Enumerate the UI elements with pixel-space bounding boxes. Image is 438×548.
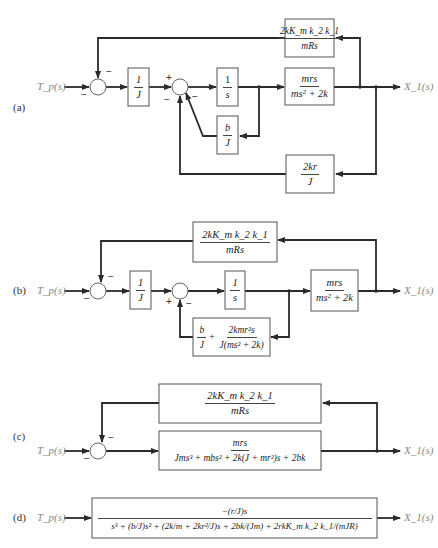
- sign-a-sum1-left: −: [81, 90, 87, 100]
- block-a-spring-feedback: 2kr J: [286, 155, 334, 193]
- sign-a-sum2-bottom-right: −: [192, 92, 198, 102]
- block-b-combined-feedback: b J + 2kmr²s J(ms² + 2k): [193, 318, 270, 356]
- sign-a-sum1-top: −: [106, 67, 112, 77]
- block-a-damping: b J: [217, 116, 238, 154]
- block-d-closed-loop: −(r/J)s s³ + (b/J)s² + (2k/m + 2kr²/J)s …: [92, 498, 377, 538]
- summing-junction-a1: [90, 79, 106, 95]
- block-a-integrator: 1 s: [217, 68, 238, 106]
- block-b-plant: mrs ms² + 2k: [311, 270, 358, 311]
- block-b-integrator: 1 s: [225, 271, 245, 309]
- block-a-plant: mrs ms² + 2k: [285, 68, 334, 105]
- input-signal-c: T_p(s): [37, 444, 66, 456]
- output-signal-b: X_1(s): [404, 284, 433, 296]
- sign-b-sum1-top: −: [108, 272, 114, 282]
- block-c-forward: mrs Jms³ + mbs² + 2k(J + mr²)s + 2bk: [159, 431, 321, 470]
- block-c-motor-feedback: 2kK_m k_2 k_1 mRs: [159, 384, 321, 423]
- output-signal-a: X_1(s): [404, 80, 433, 92]
- sign-a-sum2-bottom-left: −: [164, 95, 170, 105]
- block-a-motor-feedback: 2kK_m k_2 k_1 mRs: [285, 19, 334, 57]
- block-a-inv-j: 1 J: [128, 68, 149, 106]
- panel-label-a: (a): [13, 101, 25, 113]
- panel-label-c: (c): [13, 430, 25, 442]
- output-signal-d: X_1(s): [404, 511, 433, 523]
- summing-junction-a2: [172, 79, 188, 95]
- sign-b-sum2-left: +: [166, 297, 172, 307]
- sign-c-sum-left: −: [84, 454, 90, 464]
- sign-b-sum1-left: −: [84, 294, 90, 304]
- sign-b-sum2-bottom: −: [186, 299, 192, 309]
- output-signal-c: X_1(s): [404, 444, 433, 456]
- sign-a-sum2-left: +: [166, 73, 172, 83]
- input-signal-d: T_p(s): [37, 511, 66, 523]
- block-b-motor-feedback: 2kK_m k_2 k_1 mRs: [193, 222, 277, 262]
- sign-c-sum-top: −: [108, 433, 114, 443]
- panel-label-b: (b): [13, 284, 26, 296]
- input-signal-b: T_p(s): [37, 284, 66, 296]
- panel-label-d: (d): [13, 511, 26, 523]
- input-signal-a: T_p(s): [37, 80, 66, 92]
- block-b-inv-j: 1 J: [130, 271, 151, 309]
